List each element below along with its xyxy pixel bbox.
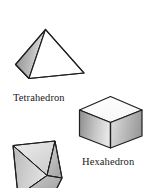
- hexahedron-shape: [80, 97, 143, 149]
- tetrahedron-face-right: [29, 30, 84, 79]
- hexahedron-label: Hexahedron: [82, 156, 134, 168]
- tetrahedron-shape: [16, 30, 85, 79]
- platonic-solids-figure: Tetrahedron Hexahedron: [0, 0, 154, 188]
- octahedron-shape: [13, 141, 62, 188]
- tetrahedron-label: Tetrahedron: [13, 92, 65, 104]
